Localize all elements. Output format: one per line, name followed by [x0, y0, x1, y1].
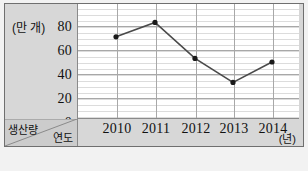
- y-axis-unit-label: (만 개): [12, 18, 45, 35]
- x-tick-label-2013: 2013: [219, 121, 248, 137]
- gridline-y-60: [78, 50, 299, 51]
- x-tick-label-2011: 2011: [142, 121, 171, 137]
- y-tick-label-40: 40: [57, 68, 72, 82]
- x-axis-label-band: 2010 2011 2012 2013 2014 (년): [77, 119, 299, 146]
- axis-corner-box: 생산량 연도: [5, 119, 77, 146]
- x-tick-label-2010: 2010: [102, 121, 131, 137]
- x-tick-label-2012: 2012: [181, 121, 210, 137]
- x-axis-title: 연도: [53, 129, 73, 145]
- gridline-x-2012: [196, 4, 197, 123]
- gridline-y-40: [78, 74, 299, 75]
- y-tick-label-60: 60: [57, 44, 72, 58]
- y-tick-label-20: 20: [57, 92, 72, 106]
- chart-figure: (만 개) 80 60 40 20 0 생산량 연도 2010 2011: [0, 0, 308, 171]
- x-axis-unit-label: (년): [279, 130, 296, 146]
- gridline-y-20: [78, 98, 299, 99]
- gridline-x-2013: [234, 4, 235, 123]
- y-axis-title: 생산량: [8, 121, 38, 137]
- gridline-y-80: [78, 26, 299, 27]
- y-tick-label-80: 80: [57, 20, 72, 34]
- gridline-x-2010: [117, 4, 118, 123]
- gridline-x-2011: [156, 4, 157, 123]
- gridline-x-2014: [273, 4, 274, 123]
